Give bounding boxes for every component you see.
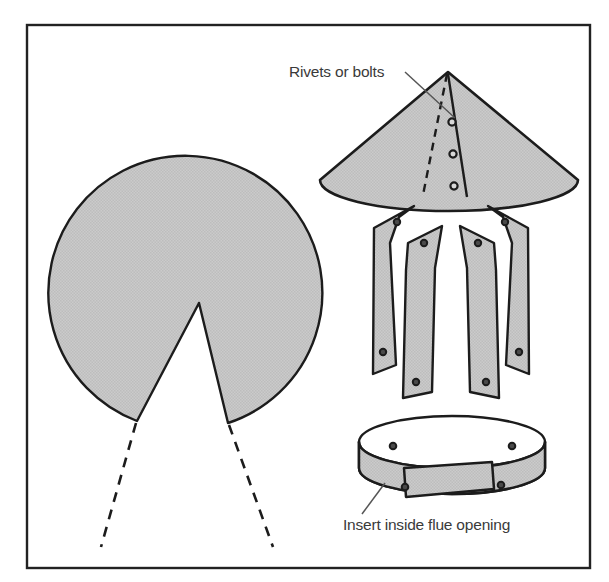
rivet-icon bbox=[448, 118, 455, 125]
rivet-icon bbox=[449, 150, 456, 157]
rivet-icon bbox=[498, 482, 505, 489]
rivet-icon bbox=[475, 240, 481, 246]
rivet-icon bbox=[413, 379, 419, 385]
chimney-cap-diagram: Rivets or bolts Insert inside flue openi… bbox=[0, 0, 609, 582]
rivet-icon bbox=[516, 349, 522, 355]
rivet-icon bbox=[450, 182, 457, 189]
rivet-icon bbox=[421, 240, 427, 246]
flue-collar-band bbox=[359, 416, 545, 497]
rivet-icon bbox=[502, 219, 508, 225]
rivet-icon bbox=[483, 379, 489, 385]
label-insert-inside-flue-opening: Insert inside flue opening bbox=[343, 516, 510, 533]
diagram-page: Rivets or bolts Insert inside flue openi… bbox=[0, 0, 609, 582]
label-rivets-or-bolts: Rivets or bolts bbox=[289, 63, 385, 80]
rivet-icon bbox=[509, 443, 516, 450]
rivet-icon bbox=[390, 443, 397, 450]
rivet-icon bbox=[402, 484, 409, 491]
rivet-icon bbox=[380, 349, 386, 355]
rivet-icon bbox=[394, 219, 400, 225]
